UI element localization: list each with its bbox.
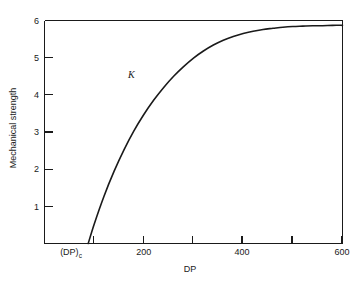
axis-frame-top-right — [45, 21, 343, 244]
k-annotation: K — [127, 69, 136, 80]
y-axis-title: Mechanical strength — [8, 88, 18, 169]
y-tick-label-6: 6 — [34, 16, 39, 26]
x-axis-title: DP — [184, 264, 197, 274]
chart-plot-area: 6 5 4 3 2 1 (DP)c 200 400 600 DP Mechani… — [0, 0, 360, 282]
x-tick-label-400: 400 — [234, 247, 249, 257]
x-tick-label-dp-c-sub: c — [79, 252, 83, 259]
y-tick-label-5: 5 — [34, 53, 39, 63]
axis-frame — [45, 21, 343, 244]
y-tick-label-2: 2 — [34, 164, 39, 174]
y-tick-label-3: 3 — [34, 127, 39, 137]
x-tick-label-200: 200 — [136, 247, 151, 257]
y-tick-label-1: 1 — [34, 202, 39, 212]
y-tick-label-4: 4 — [34, 90, 39, 100]
data-curve — [88, 25, 342, 243]
x-tick-label-dp-c: (DP)c — [60, 247, 83, 259]
chart-figure: 6 5 4 3 2 1 (DP)c 200 400 600 DP Mechani… — [0, 0, 360, 282]
x-tick-label-dp-c-base: (DP) — [60, 247, 79, 257]
x-tick-label-600: 600 — [334, 247, 349, 257]
